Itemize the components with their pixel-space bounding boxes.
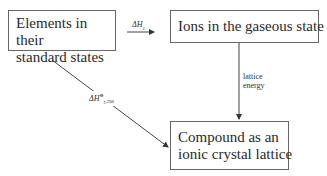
node-ions-gaseous-state: Ions in the gaseous state <box>170 10 319 43</box>
edge-label-delta-h1: ΔH1 <box>132 20 145 33</box>
node-text-line: ionic crystal lattice <box>178 146 288 163</box>
node-text-line: standard states <box>16 49 115 66</box>
edge-label-delta-hf298: ΔH⊖f,298 <box>88 91 115 106</box>
node-compound-ionic-lattice: Compound as an ionic crystal lattice <box>170 121 289 170</box>
node-elements-standard-states: Elements in their standard states <box>8 10 116 51</box>
node-text-line: Elements in their <box>16 15 115 49</box>
edge-label-lattice-energy: lattice energy <box>243 72 283 90</box>
node-text-line: Compound as an <box>178 129 288 146</box>
node-text-line: Ions in the gaseous state <box>178 18 318 35</box>
